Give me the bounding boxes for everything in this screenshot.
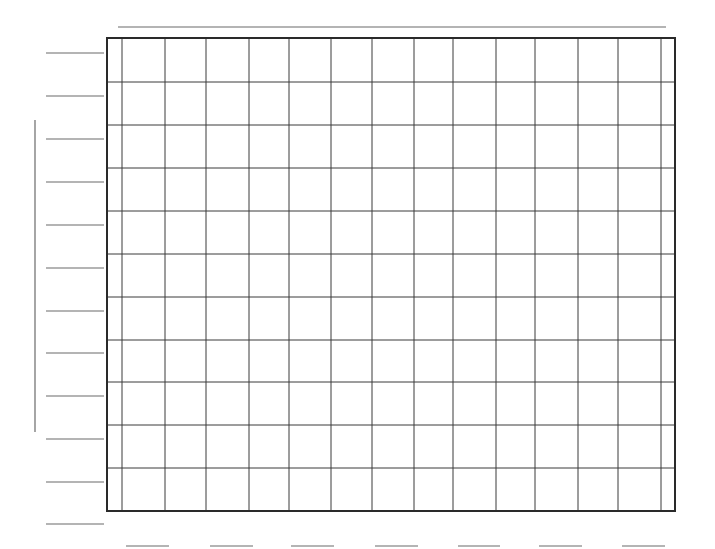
graph-worksheet <box>0 0 715 549</box>
grid-border <box>107 38 675 511</box>
graph-paper-svg <box>0 0 715 549</box>
